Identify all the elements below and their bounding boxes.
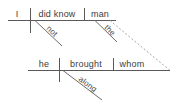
modifier-along-group: along (63, 71, 102, 101)
relative-clause-group: he brought whom along (28, 58, 170, 100)
relative-verb-label: brought (70, 59, 102, 69)
sentence-diagram: I did know man not the he brought wh (0, 0, 179, 104)
main-subject-label: I (16, 9, 19, 19)
diagram-canvas: I did know man not the he brought wh (0, 0, 179, 104)
relative-subject-label: he (39, 59, 49, 69)
relative-object-label: whom (119, 59, 145, 69)
modifier-the-label: the (103, 23, 118, 38)
modifier-not-label: not (45, 24, 60, 39)
modifier-not-group: not (35, 21, 62, 47)
main-direct-object-label: man (91, 9, 109, 19)
main-verb-label: did know (38, 9, 75, 19)
modifier-along-label: along (77, 74, 99, 94)
main-clause-group: I did know man not the (8, 8, 118, 46)
